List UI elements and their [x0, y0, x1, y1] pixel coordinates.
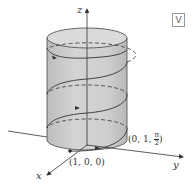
point-1-0-0: [68, 149, 72, 153]
x-axis-label: x: [36, 171, 42, 181]
badge-icon[interactable]: V: [172, 13, 185, 27]
y-axis-label: y: [173, 160, 179, 170]
point-label-1-0-0: (1, 0, 0): [69, 158, 105, 167]
y-axis-back: [8, 131, 47, 137]
z-axis-label: z: [77, 5, 82, 15]
point-label-0-1-pi-half: (0, 1, π2): [128, 132, 163, 147]
